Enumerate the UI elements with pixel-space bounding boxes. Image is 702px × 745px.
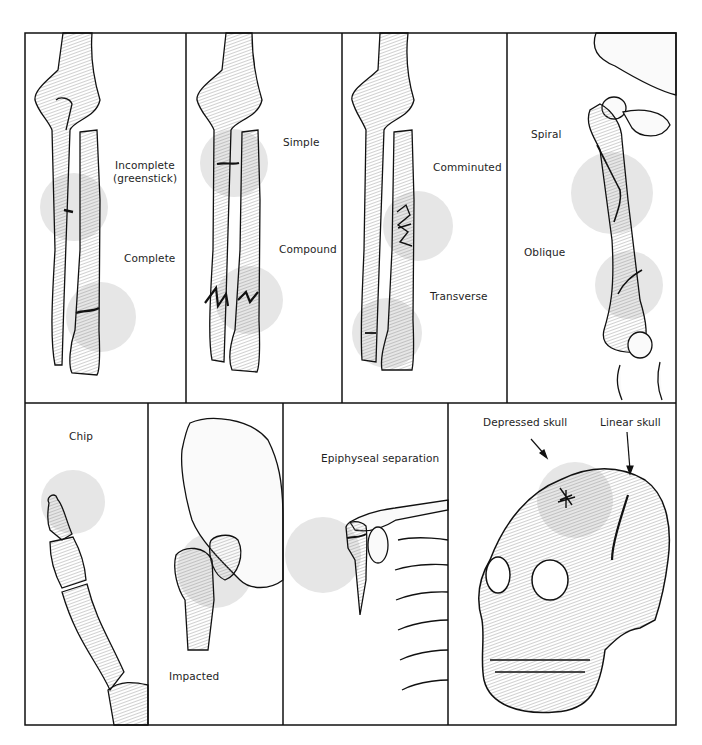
fracture-illustration (0, 0, 702, 745)
label-oblique: Oblique (524, 246, 565, 259)
fracture-types-figure: Incomplete (greenstick) Complete Simple … (0, 0, 702, 745)
label-greenstick-text: (greenstick) (113, 172, 177, 185)
skull-drawing (479, 469, 670, 713)
label-comminuted: Comminuted (433, 161, 502, 174)
label-epiphyseal: Epiphyseal separation (321, 452, 439, 465)
label-simple: Simple (283, 136, 319, 149)
label-linear-skull: Linear skull (600, 416, 661, 429)
label-spiral: Spiral (531, 128, 562, 141)
label-complete: Complete (124, 252, 175, 265)
label-depressed-skull: Depressed skull (483, 416, 567, 429)
label-compound: Compound (279, 243, 337, 256)
shoulder-drawing (346, 500, 448, 690)
label-incomplete: Incomplete (greenstick) (113, 159, 177, 185)
label-chip: Chip (69, 430, 93, 443)
finger-drawing (48, 495, 148, 725)
label-incomplete-text: Incomplete (113, 159, 177, 172)
label-impacted: Impacted (169, 670, 219, 683)
hip-drawing (175, 419, 283, 650)
label-transverse: Transverse (430, 290, 488, 303)
